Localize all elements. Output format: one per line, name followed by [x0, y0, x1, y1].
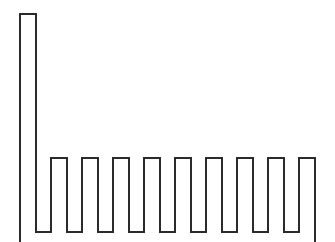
figure-root: [0, 0, 335, 242]
square-wave-chart: [0, 0, 335, 242]
